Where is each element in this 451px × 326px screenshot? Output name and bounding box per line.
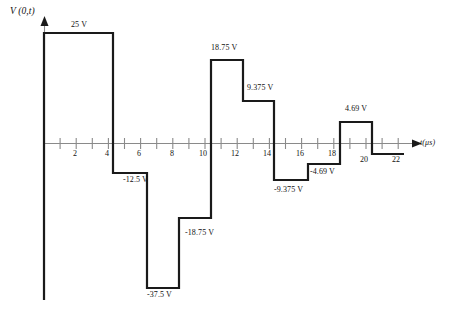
value-label-neg4-69v: -4.69 V [310,168,335,176]
figure-canvas: V (0,t) t(μs) 2 4 6 8 10 12 14 16 18 20 … [0,0,451,326]
x-tick-label-18: 18 [328,150,336,158]
y-axis-label: V (0,t) [10,7,35,17]
x-tick-label-8: 8 [170,150,174,158]
x-tick-label-20: 20 [360,156,368,164]
x-tick-label-22: 22 [392,156,400,164]
voltage-step-waveform [44,33,404,300]
x-tick-label-4: 4 [105,150,109,158]
value-label-neg12-5v: -12.5 V [123,176,148,184]
value-label-neg18-75v: -18.75 V [185,229,214,237]
x-tick-label-2: 2 [73,150,77,158]
value-label-9-375v: 9.375 V [247,84,273,92]
x-tick-label-14: 14 [263,150,271,158]
x-tick-label-6: 6 [137,150,141,158]
x-tick-label-12: 12 [231,150,239,158]
value-label-neg37-5v: -37.5 V [147,291,172,299]
x-tick-label-10: 10 [199,150,207,158]
value-label-25v: 25 V [71,21,87,29]
value-label-18-75v: 18.75 V [211,44,237,52]
y-axis-arrow-icon [41,16,49,26]
value-label-neg9-375v: -9.375 V [274,186,303,194]
x-axis-label: t(μs) [420,139,435,147]
value-label-4-69v: 4.69 V [345,105,367,113]
x-tick-label-16: 16 [296,150,304,158]
